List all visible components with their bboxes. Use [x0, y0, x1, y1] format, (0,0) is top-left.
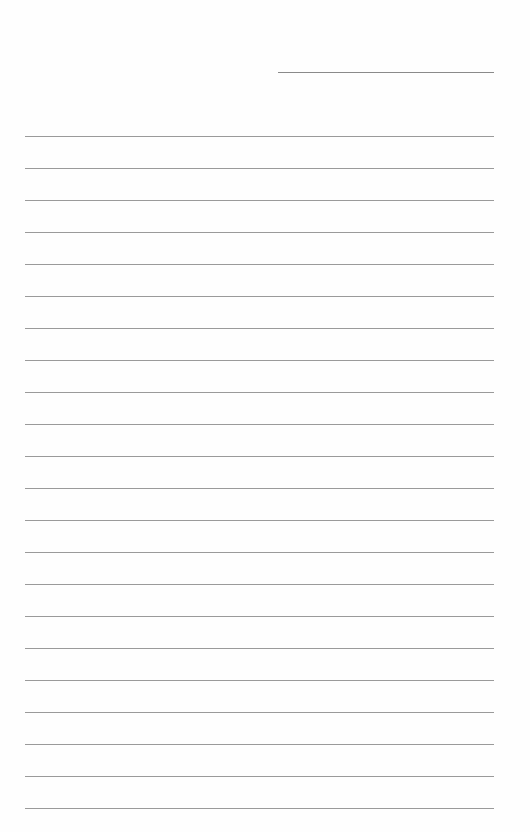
ruled-line [25, 744, 494, 745]
ruled-line [25, 392, 494, 393]
ruled-line [25, 776, 494, 777]
ruled-line [25, 424, 494, 425]
lined-paper-page [0, 0, 530, 832]
ruled-line [25, 232, 494, 233]
ruled-line [25, 296, 494, 297]
ruled-line [25, 648, 494, 649]
ruled-line [25, 712, 494, 713]
ruled-line [25, 264, 494, 265]
ruled-line [25, 168, 494, 169]
ruled-line [25, 360, 494, 361]
ruled-line [25, 328, 494, 329]
ruled-line [25, 488, 494, 489]
ruled-line [25, 200, 494, 201]
ruled-line [25, 136, 494, 137]
ruled-line [25, 680, 494, 681]
ruled-line [25, 520, 494, 521]
ruled-line [25, 616, 494, 617]
header-name-line [278, 72, 494, 73]
ruled-line [25, 808, 494, 809]
ruled-line [25, 584, 494, 585]
ruled-line [25, 456, 494, 457]
ruled-line [25, 552, 494, 553]
